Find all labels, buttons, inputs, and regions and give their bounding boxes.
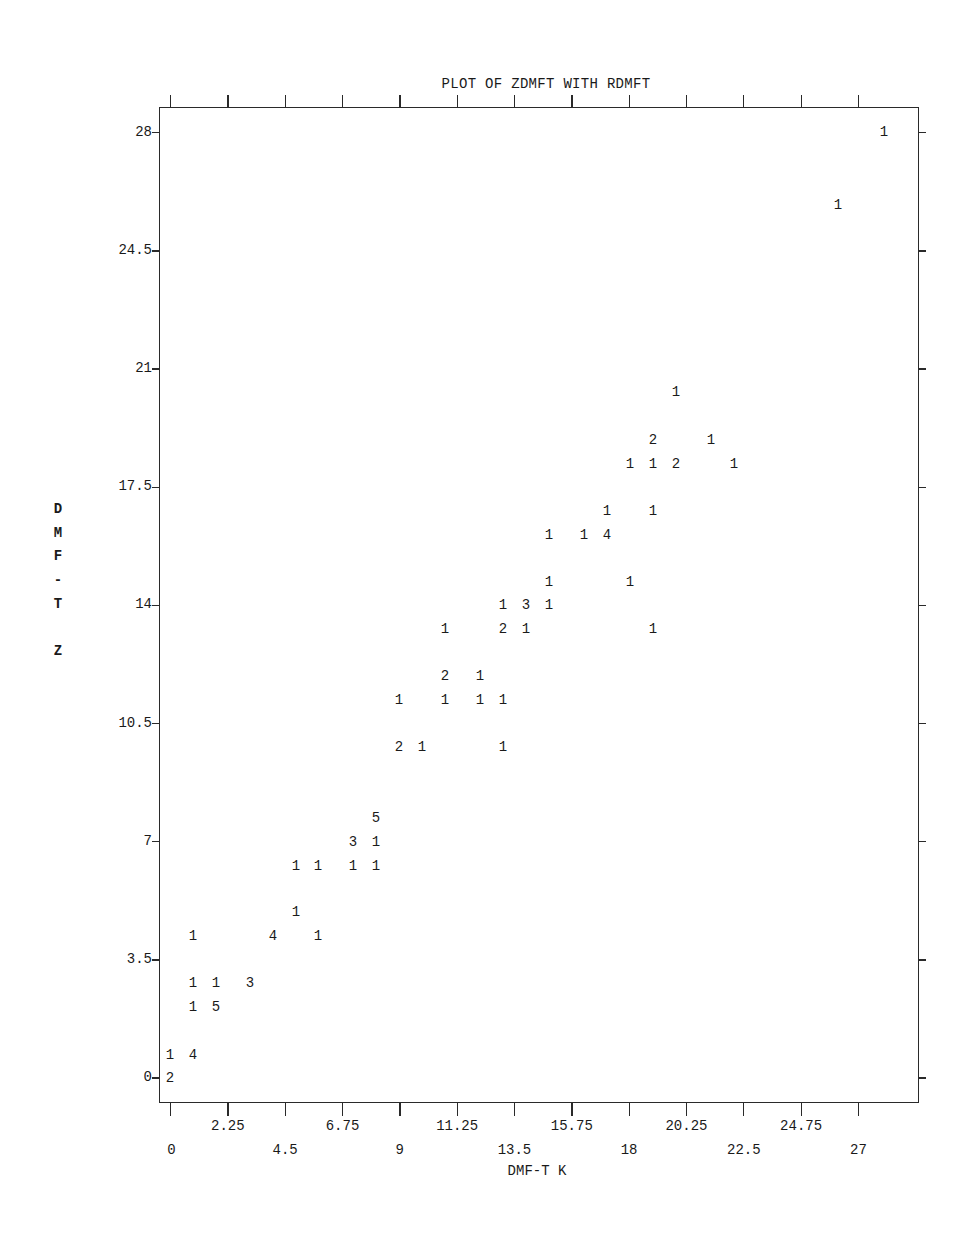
x-tick-label: 27: [818, 1142, 898, 1158]
x-tick-bottom: [629, 1103, 630, 1116]
x-tick-top: [342, 95, 343, 108]
x-tick-label: 11.25: [417, 1118, 497, 1134]
y-tick-label: 0: [92, 1069, 152, 1085]
y-tick-label: 7: [92, 833, 152, 849]
y-axis-title-letter: D: [50, 501, 66, 517]
y-tick-right: [919, 1077, 926, 1078]
x-tick-label: 13.5: [474, 1142, 554, 1158]
x-tick-top: [858, 95, 859, 108]
data-point: 2: [645, 432, 661, 448]
x-tick-label: 22.5: [704, 1142, 784, 1158]
y-axis-title-letter: T: [50, 596, 66, 612]
x-tick-label: 9: [360, 1142, 440, 1158]
data-point: 1: [576, 527, 592, 543]
y-tick-left: [152, 250, 159, 251]
x-tick-top: [170, 95, 171, 108]
data-point: 1: [391, 692, 407, 708]
y-axis-title-letter: M: [50, 525, 66, 541]
x-tick-bottom: [743, 1103, 744, 1116]
y-tick-left: [152, 487, 159, 488]
y-tick-right: [919, 132, 926, 133]
data-point: 1: [185, 975, 201, 991]
y-tick-right: [919, 368, 926, 369]
y-tick-right: [919, 487, 926, 488]
data-point: 1: [185, 928, 201, 944]
y-tick-left: [152, 605, 159, 606]
data-point: 1: [703, 432, 719, 448]
y-tick-left: [152, 723, 159, 724]
data-point: 1: [645, 621, 661, 637]
x-tick-bottom: [227, 1103, 228, 1116]
data-point: 5: [208, 999, 224, 1015]
x-tick-top: [227, 95, 228, 108]
x-tick-label: 20.25: [646, 1118, 726, 1134]
y-axis-title-letter: F: [50, 548, 66, 564]
data-point: 1: [185, 999, 201, 1015]
x-axis-title: DMF-T K: [0, 1163, 977, 1179]
data-point: 2: [668, 456, 684, 472]
data-point: 1: [830, 197, 846, 213]
data-point: 2: [162, 1070, 178, 1086]
y-tick-right: [919, 605, 926, 606]
data-point: 1: [368, 858, 384, 874]
data-point: 1: [518, 621, 534, 637]
data-point: 1: [495, 739, 511, 755]
x-tick-top: [743, 95, 744, 108]
data-point: 1: [541, 574, 557, 590]
x-tick-bottom: [170, 1103, 171, 1116]
data-point: 1: [541, 527, 557, 543]
x-tick-top: [285, 95, 286, 108]
data-point: 4: [599, 527, 615, 543]
data-point: 2: [495, 621, 511, 637]
x-tick-top: [457, 95, 458, 108]
data-point: 1: [437, 692, 453, 708]
y-tick-right: [919, 723, 926, 724]
data-point: 1: [310, 928, 326, 944]
y-tick-label: 28: [92, 124, 152, 140]
x-tick-label: 2.25: [188, 1118, 268, 1134]
y-tick-label: 14: [92, 596, 152, 612]
data-point: 1: [622, 574, 638, 590]
y-tick-left: [152, 841, 159, 842]
plot-frame: [159, 107, 919, 1103]
x-tick-top: [801, 95, 802, 108]
data-point: 1: [472, 692, 488, 708]
x-tick-bottom: [457, 1103, 458, 1116]
x-tick-label: 4.5: [245, 1142, 325, 1158]
y-tick-label: 17.5: [92, 478, 152, 494]
data-point: 1: [622, 456, 638, 472]
data-point: 1: [645, 503, 661, 519]
x-tick-top: [399, 95, 400, 108]
data-point: 1: [345, 858, 361, 874]
data-point: 1: [726, 456, 742, 472]
x-tick-top: [514, 95, 515, 108]
data-point: 1: [495, 597, 511, 613]
data-point: 1: [495, 692, 511, 708]
chart-title: PLOT OF ZDMFT WITH RDMFT: [0, 76, 977, 92]
x-tick-label: 15.75: [532, 1118, 612, 1134]
data-point: 1: [208, 975, 224, 991]
y-tick-left: [152, 959, 159, 960]
data-point: 1: [599, 503, 615, 519]
x-tick-bottom: [686, 1103, 687, 1116]
y-tick-left: [152, 1077, 159, 1078]
data-point: 1: [645, 456, 661, 472]
data-point: 2: [391, 739, 407, 755]
data-point: 3: [345, 834, 361, 850]
data-point: 1: [414, 739, 430, 755]
data-point: 3: [242, 975, 258, 991]
x-tick-bottom: [858, 1103, 859, 1116]
data-point: 1: [162, 1047, 178, 1063]
y-tick-left: [152, 368, 159, 369]
y-tick-label: 3.5: [92, 951, 152, 967]
y-tick-right: [919, 841, 926, 842]
y-tick-label: 24.5: [92, 242, 152, 258]
y-tick-label: 10.5: [92, 715, 152, 731]
data-point: 1: [876, 124, 892, 140]
x-tick-top: [629, 95, 630, 108]
x-tick-label: 6.75: [302, 1118, 382, 1134]
x-tick-label: 0: [132, 1142, 212, 1158]
y-tick-label: 21: [92, 360, 152, 376]
data-point: 1: [368, 834, 384, 850]
data-point: 4: [185, 1047, 201, 1063]
